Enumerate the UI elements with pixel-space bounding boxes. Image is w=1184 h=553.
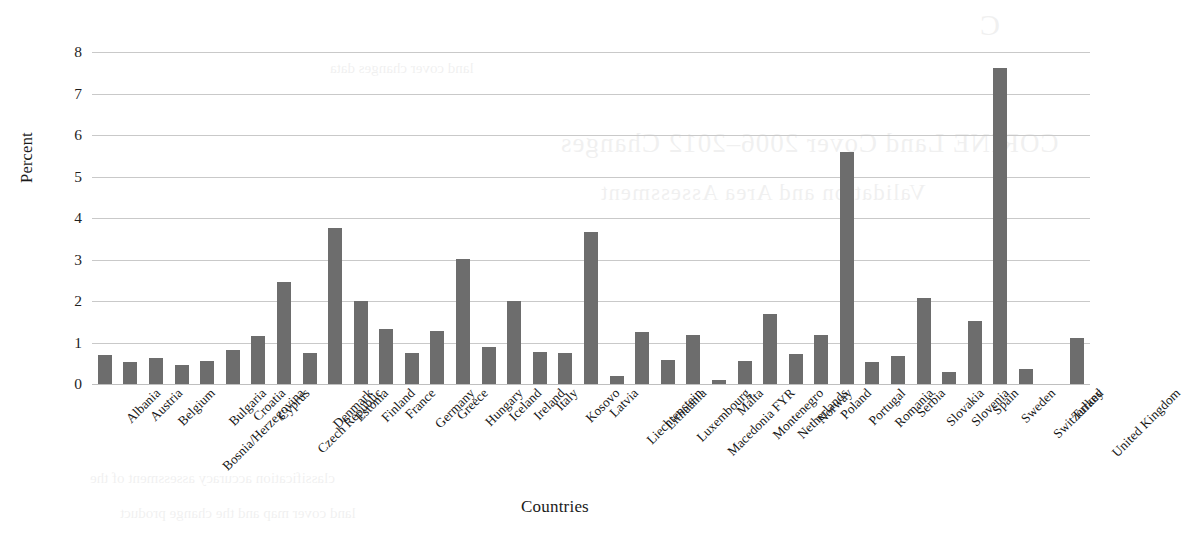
bar <box>456 259 470 384</box>
x-tick-label: Sweden <box>1019 386 1058 425</box>
gridline <box>92 52 1090 53</box>
bar <box>763 314 777 384</box>
x-axis-title: Countries <box>0 497 1110 517</box>
bar <box>149 358 163 384</box>
bar <box>840 152 854 384</box>
bar <box>891 356 905 384</box>
bar <box>1070 338 1084 384</box>
plot-area <box>92 52 1090 384</box>
x-tick-label: United Kingdom <box>1110 386 1183 459</box>
bar <box>610 376 624 384</box>
bar <box>1019 369 1033 384</box>
bar <box>328 228 342 384</box>
x-axis-category-labels: AlbaniaAustriaBelgiumBosnia/HerzegovinaB… <box>92 386 1090 506</box>
y-tick-label: 2 <box>52 293 82 309</box>
bar <box>354 301 368 384</box>
gridline <box>92 135 1090 136</box>
bar <box>303 353 317 384</box>
bar <box>865 362 879 384</box>
bar <box>968 321 982 384</box>
y-tick-label: 3 <box>52 252 82 268</box>
bar <box>942 372 956 384</box>
bar <box>635 332 649 384</box>
bar <box>917 298 931 384</box>
bar <box>430 331 444 384</box>
bar <box>558 353 572 384</box>
bar <box>738 361 752 384</box>
bar <box>686 335 700 384</box>
y-tick-label: 4 <box>52 210 82 226</box>
bar <box>789 354 803 384</box>
bar <box>175 365 189 385</box>
bar <box>379 329 393 384</box>
bar <box>123 362 137 384</box>
bar <box>405 353 419 384</box>
bar <box>584 232 598 384</box>
y-tick-label: 7 <box>52 86 82 102</box>
gridline <box>92 218 1090 219</box>
gridline <box>92 177 1090 178</box>
y-tick-label: 5 <box>52 169 82 185</box>
bar <box>482 347 496 384</box>
bar <box>507 301 521 384</box>
bar <box>200 361 214 384</box>
bar <box>277 282 291 384</box>
bar <box>251 336 265 384</box>
bar <box>98 355 112 384</box>
bar <box>814 335 828 384</box>
bar <box>661 360 675 384</box>
gridline <box>92 94 1090 95</box>
y-tick-label: 1 <box>52 335 82 351</box>
bar <box>533 352 547 384</box>
x-axis-line <box>92 384 1090 385</box>
y-tick-label: 8 <box>52 44 82 60</box>
bar <box>993 68 1007 384</box>
y-tick-label: 0 <box>52 376 82 392</box>
y-tick-label: 6 <box>52 127 82 143</box>
bar <box>226 350 240 384</box>
